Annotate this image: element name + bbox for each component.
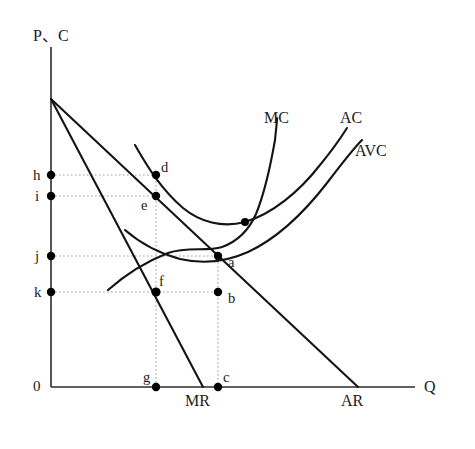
point-mc-ac-intersection (241, 218, 249, 226)
point-label-a: a (228, 255, 234, 270)
mr-curve (51, 99, 203, 387)
guide-lines-group (51, 173, 218, 387)
point-label-b: b (228, 291, 235, 306)
ac-curve (135, 128, 347, 224)
point-g (152, 383, 160, 391)
curve-label-ac: AC (340, 110, 362, 126)
curve-label-mc: MC (264, 110, 289, 126)
point-d (152, 171, 160, 179)
origin-label: 0 (33, 379, 41, 394)
y-tick-label-k: k (34, 285, 42, 300)
mc-curve (108, 118, 277, 290)
y-axis-label: P、C (33, 28, 69, 44)
plot-canvas (0, 0, 475, 449)
x-axis-label: Q (424, 379, 436, 395)
point-b (214, 288, 222, 296)
curve-label-ar: AR (341, 393, 363, 409)
point-c (214, 383, 222, 391)
point-label-g: g (143, 370, 150, 385)
point-label-c: c (223, 370, 229, 385)
y-tick-label-j: j (35, 249, 39, 264)
curve-label-mr: MR (185, 393, 210, 409)
revenue-lines-group (51, 99, 358, 387)
y-tick-label-i: i (35, 189, 39, 204)
point-a (214, 252, 222, 260)
point-label-d: d (161, 160, 168, 175)
point-label-f: f (159, 274, 164, 289)
point-h (47, 171, 55, 179)
axes-group (51, 47, 415, 387)
ar-curve (51, 99, 358, 387)
point-k (47, 288, 55, 296)
y-tick-label-h: h (33, 168, 41, 183)
cost-revenue-diagram: P、C Q 0 h i j k MC AC AVC MR AR a b c d … (0, 0, 475, 449)
point-e (152, 192, 160, 200)
curve-label-avc: AVC (355, 143, 387, 159)
point-label-e: e (141, 198, 147, 213)
point-i (47, 192, 55, 200)
point-j (47, 252, 55, 260)
